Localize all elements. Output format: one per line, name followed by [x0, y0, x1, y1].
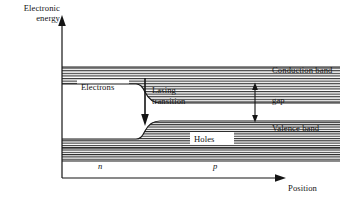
band-diagram-figure: Electronicenergy Position Conduction ban… [0, 0, 352, 204]
holes-label: Holes [194, 135, 215, 145]
valence-band-label: Valence band [272, 124, 319, 134]
lasing-transition-label-line2: transition [152, 96, 185, 106]
n-region-label: n [98, 162, 102, 172]
lasing-transition-label-line1: Lasing [152, 85, 176, 95]
p-region-label: p [213, 162, 217, 172]
y-axis-label-line2: energy [36, 13, 60, 23]
x-axis-label: Position [288, 184, 317, 194]
y-axis-label-line1: Electronic [24, 3, 60, 13]
x-axis-arrowhead [275, 174, 286, 182]
lasing-transition-label: Lasingtransition [152, 85, 185, 106]
conduction-band-label: Conduction band [272, 66, 332, 76]
band-gap-label: gap [272, 96, 285, 106]
electrons-label: Electrons [81, 83, 114, 93]
y-axis-label: Electronicenergy [4, 4, 60, 23]
